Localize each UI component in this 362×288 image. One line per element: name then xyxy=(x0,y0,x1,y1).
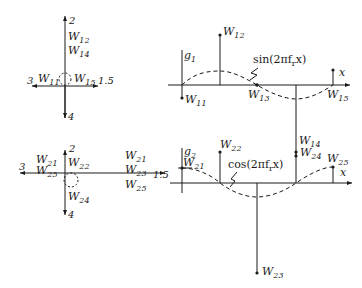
point-w25 xyxy=(331,165,334,168)
x-axis-label: x xyxy=(340,166,347,179)
weight-label-w12: W12 xyxy=(223,25,245,40)
axis-label-down: 4 xyxy=(67,111,74,122)
cosine-leader-zigzag xyxy=(230,172,237,187)
sine-leader-zigzag xyxy=(250,68,258,80)
weight-label-w12: W12 xyxy=(68,30,90,45)
weight-label-w25: W25 xyxy=(327,152,349,167)
weight-label-w11: W11 xyxy=(38,72,60,87)
weight-label-w25-right: W25 xyxy=(125,178,147,193)
axis-label-up: 2 xyxy=(68,15,75,26)
top-left-polar-panel: 2 4 3 1.5 W12 W14 W11 W15 xyxy=(27,15,114,122)
point-x xyxy=(331,68,334,71)
weight-label-w24: W24 xyxy=(68,190,90,205)
cosine-function-label: cos(2πfrx) xyxy=(228,158,283,173)
g1-label: g1 xyxy=(184,49,196,64)
weight-label-w22: W22 xyxy=(68,156,90,171)
axis-label-right: 1.5 xyxy=(98,75,114,86)
axis-label-left: 3 xyxy=(27,75,33,86)
weight-label-w22: W22 xyxy=(220,138,242,153)
point-w12 xyxy=(218,33,221,36)
gabor-weight-diagram: 2 4 3 1.5 W12 W14 W11 W15 g1 W11 W12 W13… xyxy=(0,0,362,288)
weight-label-w15: W15 xyxy=(327,88,349,103)
dashed-circle xyxy=(64,173,78,187)
axis-label-up: 2 xyxy=(68,143,75,154)
axis-label-left: 3 xyxy=(19,161,25,172)
weight-label-w15: W15 xyxy=(74,72,96,87)
weight-label-w21: W21 xyxy=(183,156,205,171)
point-w13 xyxy=(255,83,259,87)
weight-label-w23-right: W23 xyxy=(125,163,147,178)
weight-label-w14: W14 xyxy=(68,44,90,59)
point-w11 xyxy=(180,96,183,99)
weight-label-w21-right: W21 xyxy=(125,149,147,164)
sine-function-label: sin(2πfrx) xyxy=(253,53,306,68)
point-w24 xyxy=(294,150,297,153)
weight-label-w23: W23 xyxy=(262,265,284,280)
axis-label-down: 4 xyxy=(67,209,74,220)
top-right-sine-panel: g1 W11 W12 W13 W14 x W15 sin(2πfrx) xyxy=(168,25,350,158)
x-axis-label: x xyxy=(339,66,346,79)
weight-label-w11: W11 xyxy=(185,93,207,108)
bottom-left-polar-panel: 2 4 3 1.5 W21 W25 W22 W24 W21 W23 W25 xyxy=(19,143,169,220)
axis-label-right: 1.5 xyxy=(153,169,169,180)
point-w23 xyxy=(255,271,258,274)
bottom-right-cosine-panel: g2 W21 W22 W23 W24 W25 x cos(2πfrx) xyxy=(170,138,352,280)
